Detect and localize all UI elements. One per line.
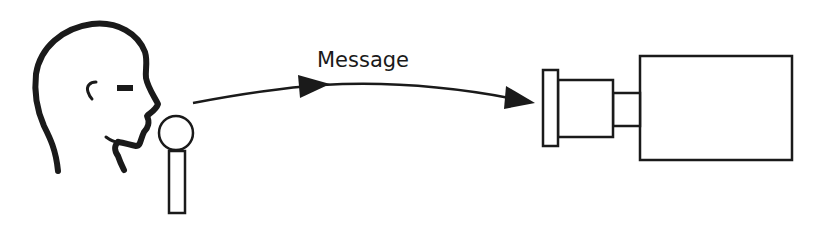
person-head-icon (35, 24, 158, 171)
diagram-canvas (0, 0, 830, 230)
camera-icon (543, 56, 792, 160)
message-arrow (193, 75, 535, 109)
message-label: Message (317, 48, 409, 72)
microphone-icon (159, 116, 193, 213)
